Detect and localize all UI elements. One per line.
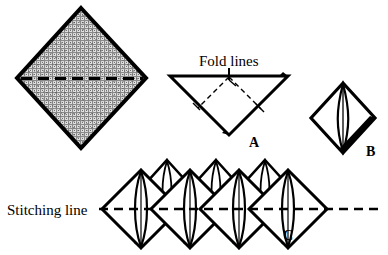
panel-a-figure — [170, 68, 288, 135]
panel-b-figure — [311, 83, 375, 153]
construction-diagram: Fold lines Stitching line A B C — [0, 0, 388, 255]
panel-label-b: B — [366, 144, 375, 159]
stitching-line-label: Stitching line — [7, 202, 88, 218]
fabric-square-figure — [17, 8, 146, 148]
panel-c-figure — [99, 160, 381, 248]
panel-label-c: C — [283, 228, 293, 243]
panel-a-triangle — [170, 76, 288, 135]
figure-root: Fold lines Stitching line A B C — [0, 0, 388, 255]
fold-lines-label: Fold lines — [199, 53, 259, 69]
panel-label-a: A — [249, 135, 260, 150]
